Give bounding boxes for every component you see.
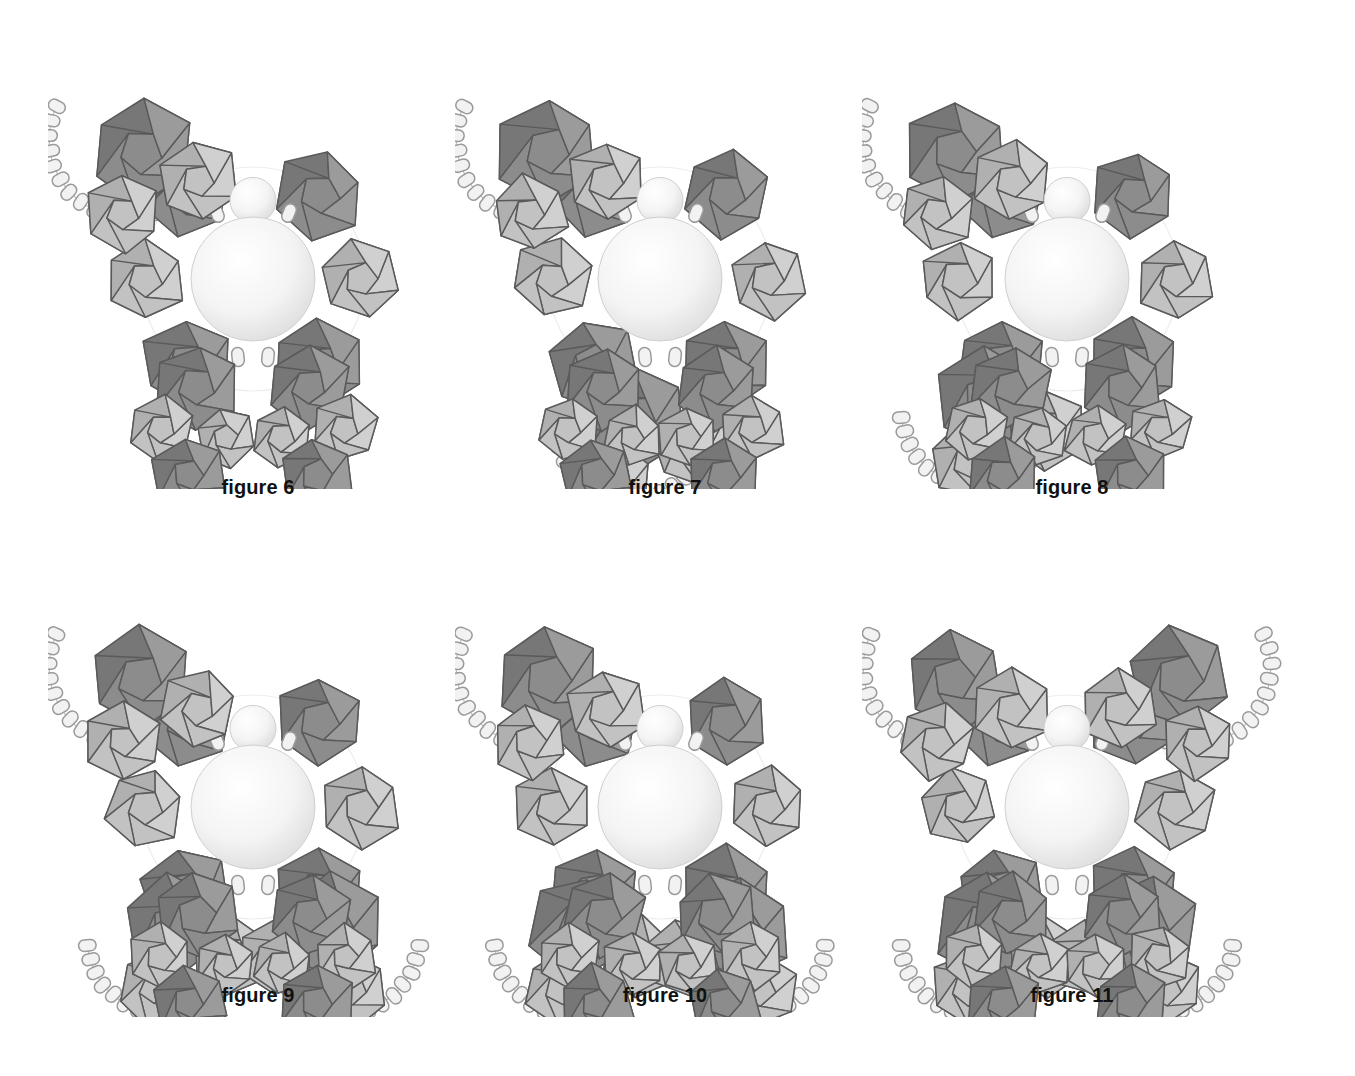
figure-6-caption: figure 6 <box>48 476 468 499</box>
figure-8-caption: figure 8 <box>862 476 1282 499</box>
figure-9-caption: figure 9 <box>48 984 468 1007</box>
figure-6-artwork <box>48 24 468 489</box>
figure-7-caption: figure 7 <box>455 476 875 499</box>
figure-panel-6: figure 6 <box>48 24 468 544</box>
figure-panel-7: figure 7 <box>455 24 875 544</box>
figure-panel-11: figure 11 <box>862 552 1282 1072</box>
figure-plate: figure 6 figure 7 figure 8 figure 9 figu… <box>0 0 1355 1076</box>
figure-8-artwork <box>862 24 1282 489</box>
figure-7-artwork <box>455 24 875 489</box>
figure-panel-9: figure 9 <box>48 552 468 1072</box>
figure-panel-8: figure 8 <box>862 24 1282 544</box>
figure-11-caption: figure 11 <box>862 984 1282 1007</box>
figure-10-artwork <box>455 552 875 1017</box>
figure-10-caption: figure 10 <box>455 984 875 1007</box>
figure-9-artwork <box>48 552 468 1017</box>
figure-panel-10: figure 10 <box>455 552 875 1072</box>
figure-11-artwork <box>862 552 1282 1017</box>
